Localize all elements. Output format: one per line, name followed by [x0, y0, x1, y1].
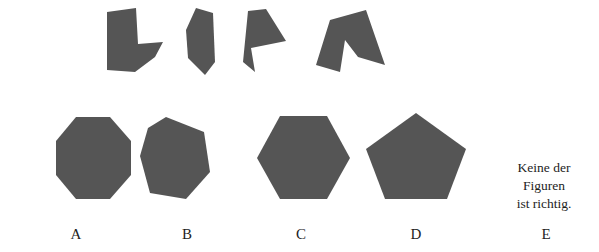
chevron-piece	[107, 8, 163, 72]
option-a-octagon[interactable]	[56, 117, 131, 199]
option-label-e[interactable]: E	[526, 227, 566, 242]
tent-piece	[316, 10, 385, 72]
option-e-text-block[interactable]: Keine der Figuren ist richtig.	[492, 159, 596, 213]
option-label-a[interactable]: A	[56, 227, 96, 242]
option-e-line-1: Keine der	[492, 159, 596, 177]
shape-assembly-question: Keine der Figuren ist richtig. A B C D E	[0, 0, 599, 252]
answer-options-row	[56, 113, 466, 199]
puzzle-pieces-row	[107, 8, 385, 75]
puzzle-graphics	[0, 0, 599, 252]
option-c-hexagon[interactable]	[257, 116, 350, 199]
option-b-heptagon[interactable]	[140, 117, 210, 199]
option-e-line-3: ist richtig.	[492, 195, 596, 213]
option-label-d[interactable]: D	[396, 227, 436, 242]
option-d-pentagon[interactable]	[366, 113, 466, 199]
option-e-line-2: Figuren	[492, 177, 596, 195]
option-label-b[interactable]: B	[167, 227, 207, 242]
option-label-c[interactable]: C	[281, 227, 321, 242]
dart-piece	[243, 9, 286, 72]
kite-piece	[186, 8, 215, 75]
